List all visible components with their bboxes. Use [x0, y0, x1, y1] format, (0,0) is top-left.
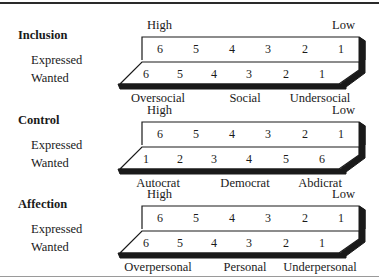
wanted-scale-value: 4	[246, 152, 252, 167]
expressed-scale-value: 4	[229, 211, 235, 226]
section-inclusion: Inclusion High Low Expressed Wanted 6543…	[0, 18, 379, 108]
expressed-box	[142, 37, 365, 60]
wanted-scale-value: 5	[177, 236, 183, 251]
expressed-scale-value: 1	[338, 127, 344, 142]
expressed-scale-value: 6	[157, 127, 163, 142]
expressed-scale-value: 6	[157, 42, 163, 57]
slab-bottom-edge	[118, 84, 346, 89]
wanted-scale-value: 3	[246, 67, 252, 82]
wanted-scale-value: 2	[283, 67, 289, 82]
wanted-scale-value: 3	[246, 236, 252, 251]
wanted-scale-value: 5	[283, 152, 289, 167]
wanted-scale-value: 5	[177, 67, 183, 82]
expressed-scale-value: 3	[265, 42, 271, 57]
wanted-scale-value: 4	[211, 236, 217, 251]
expressed-scale-value: 5	[193, 127, 199, 142]
wanted-scale-value: 3	[211, 152, 217, 167]
expressed-scale-value: 1	[338, 211, 344, 226]
section-affection: Affection High Low Expressed Wanted 6543…	[0, 187, 379, 277]
wanted-scale-value: 6	[143, 236, 149, 251]
wanted-scale-value: 1	[319, 67, 325, 82]
wanted-scale-value: 6	[319, 152, 325, 167]
slab-bottom-edge	[118, 169, 346, 174]
expressed-scale-value: 6	[157, 211, 163, 226]
wanted-scale-value: 1	[143, 152, 149, 167]
expressed-scale-value: 3	[265, 127, 271, 142]
wanted-scale-value: 4	[211, 67, 217, 82]
expressed-scale-value: 2	[302, 127, 308, 142]
category-label: Underpersonal	[283, 260, 357, 275]
expressed-box	[142, 122, 365, 145]
expressed-scale-value: 2	[302, 42, 308, 57]
top-rule	[0, 2, 379, 4]
expressed-scale-value: 5	[193, 211, 199, 226]
expressed-scale-value: 3	[265, 211, 271, 226]
expressed-scale-value: 4	[229, 127, 235, 142]
bottom-rule	[0, 276, 379, 277]
wanted-scale-value: 2	[177, 152, 183, 167]
slab-bottom-edge	[118, 253, 346, 258]
wanted-scale-value: 1	[319, 236, 325, 251]
category-label: Overpersonal	[124, 260, 191, 275]
expressed-scale-value: 2	[302, 211, 308, 226]
expressed-scale-value: 5	[193, 42, 199, 57]
category-label: Personal	[223, 260, 266, 275]
expressed-scale-value: 1	[338, 42, 344, 57]
expressed-scale-value: 4	[229, 42, 235, 57]
wanted-scale-value: 2	[283, 236, 289, 251]
expressed-box	[142, 206, 365, 229]
wanted-scale-value: 6	[143, 67, 149, 82]
section-control: Control High Low Expressed Wanted 654321…	[0, 103, 379, 193]
